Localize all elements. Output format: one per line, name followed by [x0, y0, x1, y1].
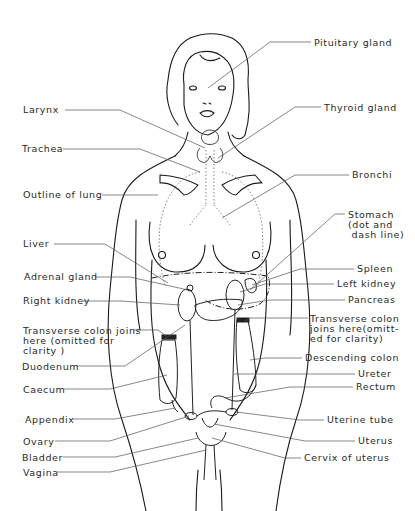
right-kidney-shape — [178, 289, 196, 321]
label-trachea: Trachea — [22, 144, 63, 154]
uterine-tube-shape — [197, 411, 226, 416]
label-duodenum: Duodenum — [22, 362, 79, 372]
label-bladder: Bladder — [22, 453, 63, 463]
uterus-shape — [202, 418, 218, 427]
label-appendix: Appendix — [25, 415, 75, 425]
label-cervix-of-uterus: Cervix of uterus — [304, 453, 390, 463]
label-left-kidney: Left kidney — [337, 279, 396, 289]
bladder-shape — [196, 432, 226, 446]
label-descending-colon: Descending colon — [305, 353, 399, 363]
label-spleen: Spleen — [357, 264, 393, 274]
label-caecum: Caecum — [23, 385, 65, 395]
label-adrenal-gland: Adrenal gland — [24, 272, 98, 282]
trachea-shape — [206, 150, 214, 205]
label-liver: Liver — [23, 239, 49, 249]
leader-lines — [54, 42, 355, 472]
label-stomach: Stomach (dot and dash line) — [348, 210, 404, 240]
label-bronchi: Bronchi — [352, 170, 392, 180]
label-thyroid-gland: Thyroid gland — [324, 103, 397, 113]
label-vagina: Vagina — [23, 468, 59, 478]
anatomy-diagram: Larynx Trachea Outline of lung Liver Adr… — [0, 0, 415, 511]
label-rectum: Rectum — [356, 382, 396, 392]
label-ureter: Ureter — [358, 369, 392, 379]
ureter-left — [190, 320, 193, 415]
label-transverse-colon-right: Transverse colon joins here(omitt- ed fo… — [310, 314, 399, 344]
hair-outline — [167, 34, 249, 139]
label-uterine-tube: Uterine tube — [327, 415, 394, 425]
body-illustration — [0, 0, 415, 511]
label-uterus: Uterus — [358, 436, 393, 446]
label-transverse-colon-left: Transverse colon joins here (omitted for… — [23, 326, 141, 356]
thyroid-shape — [197, 148, 223, 163]
label-ovary: Ovary — [23, 437, 54, 447]
label-pancreas: Pancreas — [348, 295, 395, 305]
label-pituitary-gland: Pituitary gland — [314, 38, 392, 48]
face-outline — [184, 51, 234, 135]
label-outline-of-lung: Outline of lung — [23, 190, 102, 200]
larynx-shape — [201, 130, 218, 145]
stomach-outline — [152, 272, 270, 309]
label-right-kidney: Right kidney — [23, 296, 90, 306]
ureter-right — [232, 310, 235, 410]
breast-left — [149, 222, 205, 272]
label-larynx: Larynx — [23, 105, 59, 115]
